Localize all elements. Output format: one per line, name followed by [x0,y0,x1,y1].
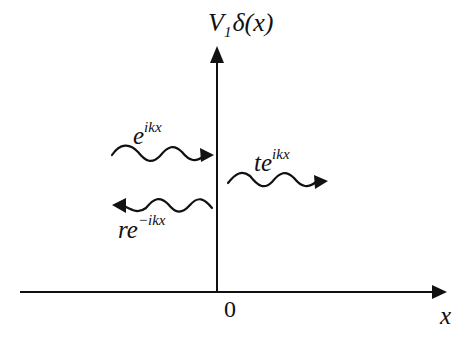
reflected-arrow-icon [112,198,126,213]
x-axis-arrow-icon [432,285,447,299]
delta-potential-line [210,46,224,292]
incident-wave: eikx [112,119,214,162]
potential-arrow-icon [210,46,224,63]
incident-arrow-icon [200,148,214,162]
transmitted-wave: teikx [228,146,328,189]
incident-wave-label: eikx [133,119,162,149]
delta-potential-diagram: V1δ(x) eikx re−ikx teikx 0 x [0,0,471,338]
x-axis-label: x [439,302,451,329]
transmitted-wave-label: teikx [254,146,290,176]
potential-label: V1δ(x) [208,8,273,40]
reflected-wave: re−ikx [112,198,212,243]
transmitted-arrow-icon [314,175,328,189]
reflected-wave-label: re−ikx [118,212,166,243]
origin-label: 0 [224,296,236,322]
